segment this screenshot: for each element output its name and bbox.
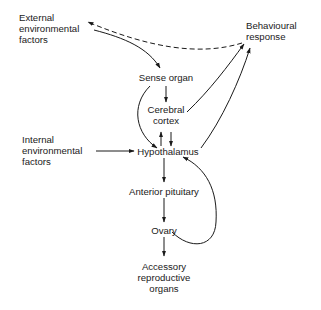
label-line: reproductive xyxy=(120,272,208,283)
node-behavioural-response: Behavioural response xyxy=(246,20,297,42)
node-accessory-organs: Accessory reproductive organs xyxy=(120,261,208,295)
label-line: environmental xyxy=(22,145,82,156)
label-line: factors xyxy=(19,34,79,45)
label-line: Behavioural xyxy=(246,20,297,31)
node-ovary: Ovary xyxy=(140,225,188,236)
node-cerebral-cortex: Cerebral cortex xyxy=(138,104,194,126)
node-external-factors: External environmental factors xyxy=(19,12,79,46)
label-line: Cerebral xyxy=(138,104,194,115)
label-line: cortex xyxy=(138,115,194,126)
node-sense-organ: Sense organ xyxy=(130,72,202,83)
arrow-hypothalamus-to-behaviour xyxy=(201,48,250,148)
arrow-external-to-sense xyxy=(94,30,160,68)
node-internal-factors: Internal environmental factors xyxy=(22,134,82,168)
node-anterior-pituitary: Anterior pituitary xyxy=(114,186,214,197)
arrow-behaviour-to-external xyxy=(88,22,242,49)
label-line: Internal xyxy=(22,134,82,145)
label-line: External xyxy=(19,12,79,23)
label-line: Accessory xyxy=(120,261,208,272)
label-line: organs xyxy=(120,283,208,294)
label-line: environmental xyxy=(19,23,79,34)
label-line: factors xyxy=(22,156,82,167)
node-hypothalamus: Hypothalamus xyxy=(130,146,206,157)
label-line: response xyxy=(246,31,297,42)
